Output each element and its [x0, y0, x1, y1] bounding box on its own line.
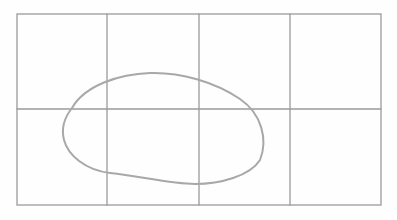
- irregular-loop: [63, 73, 264, 184]
- sketch-canvas: [0, 0, 397, 220]
- grid-sketch: [0, 0, 397, 220]
